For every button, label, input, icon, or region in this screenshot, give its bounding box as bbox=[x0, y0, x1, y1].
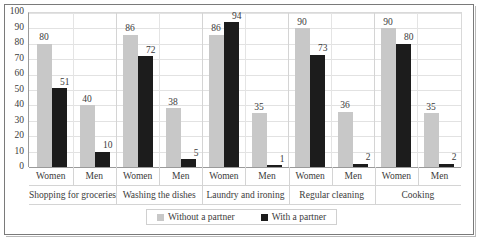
bar-without-a-partner[interactable]: 35 bbox=[252, 113, 267, 167]
subcategory-row: WomenMen bbox=[289, 167, 375, 186]
bar-value-label: 90 bbox=[383, 18, 393, 28]
bar-subgroup-men: 385 bbox=[159, 13, 202, 167]
bar-pair: 4010 bbox=[80, 13, 110, 167]
legend-item-without-a-partner: Without a partner bbox=[157, 212, 235, 222]
bar-without-a-partner[interactable]: 38 bbox=[166, 108, 181, 167]
bar-subgroup-women: 8051 bbox=[30, 13, 73, 167]
subcategory-label-women: Women bbox=[29, 167, 73, 185]
bar-value-label: 35 bbox=[426, 103, 436, 113]
y-tick-label-10: 10 bbox=[15, 147, 25, 157]
subcategory-label-men: Men bbox=[332, 167, 375, 185]
bar-without-a-partner[interactable]: 35 bbox=[424, 113, 439, 167]
subcategory-label-women: Women bbox=[289, 167, 332, 185]
category-label: Shopping for groceries bbox=[29, 186, 116, 204]
bar-subgroup-women: 9080 bbox=[374, 13, 417, 167]
bar-without-a-partner[interactable]: 80 bbox=[37, 44, 52, 167]
category-label: Laundry and ironing bbox=[202, 186, 288, 204]
legend-swatch-icon-with-a-partner bbox=[261, 214, 268, 221]
bar-subgroup-women: 8694 bbox=[202, 13, 245, 167]
plot-wrapper: 805140108672385869435190733629080352 100… bbox=[28, 12, 462, 167]
bar-without-a-partner[interactable]: 86 bbox=[123, 35, 138, 167]
bar-value-label: 72 bbox=[146, 46, 156, 56]
y-tick-label-20: 20 bbox=[15, 131, 25, 141]
subcategory-row: WomenMen bbox=[29, 167, 116, 186]
y-tick-label-50: 50 bbox=[15, 85, 25, 95]
y-tick-label-60: 60 bbox=[15, 69, 25, 79]
bar-value-label: 80 bbox=[39, 33, 49, 43]
category-label: Cooking bbox=[375, 186, 461, 204]
bar-group: 8694351 bbox=[202, 13, 288, 167]
subcategory-label-men: Men bbox=[245, 167, 288, 185]
bar-value-label: 73 bbox=[318, 44, 328, 54]
legend-swatch-icon-without-a-partner bbox=[157, 214, 164, 221]
bar-group: 9073362 bbox=[288, 13, 374, 167]
y-tick-label-30: 30 bbox=[15, 116, 25, 126]
bar-group: 80514010 bbox=[30, 13, 116, 167]
bar-value-label: 94 bbox=[232, 12, 242, 22]
bar-pair: 9080 bbox=[381, 13, 411, 167]
bar-subgroup-men: 351 bbox=[245, 13, 288, 167]
category-group: WomenMenCooking bbox=[375, 167, 461, 204]
bar-with-a-partner[interactable]: 73 bbox=[310, 55, 325, 167]
category-axis: WomenMenShopping for groceriesWomenMenWa… bbox=[29, 167, 461, 205]
bar-with-a-partner[interactable]: 80 bbox=[396, 44, 411, 167]
bar-value-label: 40 bbox=[82, 95, 92, 105]
bar-groups: 805140108672385869435190733629080352 bbox=[30, 13, 460, 167]
bar-value-label: 80 bbox=[404, 33, 414, 43]
y-tick-label-40: 40 bbox=[15, 100, 25, 110]
bar-with-a-partner[interactable]: 94 bbox=[224, 22, 239, 167]
chart-figure: 805140108672385869435190733629080352 100… bbox=[0, 0, 481, 242]
bar-without-a-partner[interactable]: 90 bbox=[381, 28, 396, 167]
category-group: WomenMenRegular cleaning bbox=[289, 167, 375, 204]
bar-without-a-partner[interactable]: 90 bbox=[295, 28, 310, 167]
bar-value-label: 5 bbox=[194, 149, 199, 159]
bar-value-label: 2 bbox=[366, 153, 371, 163]
bar-pair: 8694 bbox=[209, 13, 239, 167]
subcategory-label-men: Men bbox=[73, 167, 117, 185]
bar-subgroup-women: 8672 bbox=[116, 13, 159, 167]
subcategory-row: WomenMen bbox=[375, 167, 461, 186]
bar-value-label: 1 bbox=[280, 155, 285, 165]
bar-with-a-partner[interactable]: 51 bbox=[52, 88, 67, 167]
bar-with-a-partner[interactable]: 10 bbox=[95, 152, 110, 167]
bar-value-label: 86 bbox=[125, 24, 135, 34]
bar-group: 8672385 bbox=[116, 13, 202, 167]
bar-subgroup-men: 362 bbox=[331, 13, 374, 167]
bar-pair: 9073 bbox=[295, 13, 325, 167]
subcategory-row: WomenMen bbox=[116, 167, 202, 186]
legend-item-with-a-partner: With a partner bbox=[261, 212, 326, 222]
category-label: Regular cleaning bbox=[289, 186, 375, 204]
legend-label-with-a-partner: With a partner bbox=[272, 212, 326, 222]
bar-with-a-partner[interactable]: 5 bbox=[181, 159, 196, 167]
y-tick-label-0: 0 bbox=[19, 162, 24, 172]
bar-without-a-partner[interactable]: 40 bbox=[80, 105, 95, 167]
bar-subgroup-men: 4010 bbox=[73, 13, 116, 167]
bar-value-label: 90 bbox=[297, 18, 307, 28]
bar-value-label: 38 bbox=[168, 98, 178, 108]
y-tick-label-80: 80 bbox=[15, 38, 25, 48]
bar-group: 9080352 bbox=[374, 13, 460, 167]
subcategory-label-women: Women bbox=[202, 167, 245, 185]
bar-value-label: 86 bbox=[211, 24, 221, 34]
subcategory-label-women: Women bbox=[375, 167, 418, 185]
bar-subgroup-women: 9073 bbox=[288, 13, 331, 167]
bar-pair: 8051 bbox=[37, 13, 67, 167]
subcategory-label-women: Women bbox=[116, 167, 159, 185]
bar-without-a-partner[interactable]: 36 bbox=[338, 112, 353, 167]
bar-pair: 362 bbox=[338, 13, 368, 167]
y-tick-label-90: 90 bbox=[15, 23, 25, 33]
bar-with-a-partner[interactable]: 72 bbox=[138, 56, 153, 167]
y-tick-label-100: 100 bbox=[10, 7, 24, 17]
bar-value-label: 36 bbox=[340, 101, 350, 111]
subcategory-label-men: Men bbox=[418, 167, 461, 185]
bar-value-label: 51 bbox=[60, 78, 70, 88]
bar-pair: 385 bbox=[166, 13, 196, 167]
bar-value-label: 10 bbox=[103, 141, 113, 151]
chart-legend: Without a partner With a partner bbox=[146, 209, 337, 225]
bar-without-a-partner[interactable]: 86 bbox=[209, 35, 224, 167]
bar-pair: 8672 bbox=[123, 13, 153, 167]
category-group: WomenMenWashing the dishes bbox=[116, 167, 202, 204]
bar-subgroup-men: 352 bbox=[417, 13, 460, 167]
category-group: WomenMenShopping for groceries bbox=[29, 167, 116, 204]
bar-pair: 352 bbox=[424, 13, 454, 167]
